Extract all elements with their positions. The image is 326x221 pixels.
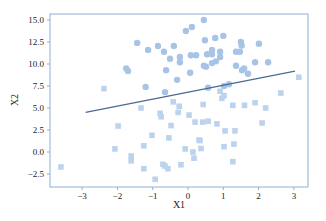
x-tick-label: −3: [77, 191, 87, 201]
circle-point: [134, 40, 140, 46]
circle-point: [201, 17, 207, 23]
circle-point: [237, 48, 243, 54]
y-axis-ticks: −2.50.02.55.07.510.012.515.0: [28, 15, 50, 179]
x-tick-label: −1: [148, 191, 158, 201]
circle-point: [256, 41, 262, 47]
y-axis-label: X2: [9, 94, 20, 106]
circle-point: [174, 77, 180, 83]
scatter-chart: −3−2−10123 −2.50.02.55.07.510.012.515.0 …: [0, 0, 326, 221]
circle-point: [220, 33, 226, 39]
circle-point: [171, 43, 177, 49]
plot-frame: [50, 14, 308, 187]
circle-point: [233, 63, 239, 69]
square-point: [168, 123, 174, 129]
circle-point: [142, 84, 148, 90]
circle-point: [145, 47, 151, 53]
circle-point: [203, 63, 209, 69]
x-tick-label: −2: [113, 191, 123, 201]
square-point: [231, 141, 237, 147]
square-point: [166, 135, 172, 141]
x-tick-label: 0: [186, 191, 191, 201]
circle-point: [213, 58, 219, 64]
square-point: [230, 103, 236, 109]
circle-point: [202, 37, 208, 43]
circle-point: [125, 68, 131, 74]
circle-point: [193, 52, 199, 58]
square-point: [252, 100, 258, 106]
square-point: [219, 96, 225, 102]
circle-point: [187, 70, 193, 76]
square-point: [221, 144, 227, 150]
y-tick-label: 15.0: [28, 15, 44, 25]
x-tick-label: 1: [221, 191, 226, 201]
y-tick-label: −2.5: [28, 169, 45, 179]
circle-point: [155, 43, 161, 49]
square-point: [232, 128, 238, 134]
square-point: [205, 118, 211, 124]
circle-point: [238, 42, 244, 48]
square-point: [214, 121, 220, 127]
square-point: [128, 158, 134, 164]
square-point: [192, 119, 198, 125]
circle-point: [183, 28, 189, 34]
square-point: [101, 86, 107, 92]
square-point: [165, 166, 171, 172]
circle-point: [265, 59, 271, 65]
square-point: [176, 103, 182, 109]
square-point: [191, 155, 197, 161]
square-point: [198, 146, 204, 152]
square-point: [278, 90, 284, 96]
circle-point: [167, 56, 173, 62]
y-tick-label: 10.0: [28, 59, 44, 69]
circle-point: [239, 67, 245, 73]
y-tick-label: 12.5: [28, 37, 44, 47]
square-point: [152, 176, 158, 182]
y-tick-label: 2.5: [33, 125, 45, 135]
y-tick-label: 7.5: [33, 81, 45, 91]
square-point: [138, 105, 144, 111]
circle-point: [161, 48, 167, 54]
square-point: [296, 74, 302, 80]
x-tick-label: 3: [292, 191, 297, 201]
square-point: [190, 149, 196, 155]
circle-point: [163, 67, 169, 73]
circle-point: [252, 59, 258, 65]
circle-point: [177, 59, 183, 65]
circle-point: [209, 51, 215, 57]
square-point: [158, 114, 164, 120]
square-point: [222, 128, 228, 134]
y-tick-label: 0.0: [33, 147, 45, 157]
square-point: [200, 119, 206, 125]
square-point: [263, 105, 269, 111]
square-point: [178, 162, 184, 168]
square-point: [58, 164, 64, 170]
square-point: [112, 146, 118, 152]
square-point: [175, 110, 181, 116]
square-point: [259, 120, 265, 126]
circle-point: [245, 70, 251, 76]
square-point: [141, 143, 147, 149]
y-tick-label: 5.0: [33, 103, 45, 113]
x-axis-label: X1: [173, 199, 185, 210]
square-point: [128, 153, 134, 159]
square-point: [186, 112, 192, 118]
square-point: [200, 102, 206, 108]
square-point: [149, 132, 155, 138]
circle-point: [162, 89, 168, 95]
x-tick-label: 2: [256, 191, 261, 201]
square-point: [230, 159, 236, 165]
square-point: [170, 99, 176, 105]
circle-point: [189, 24, 195, 30]
circle-point: [212, 35, 218, 41]
x-axis-ticks: −3−2−10123: [77, 187, 296, 201]
square-point: [197, 138, 203, 144]
square-point: [242, 103, 248, 109]
square-point: [141, 166, 147, 172]
square-point: [115, 123, 121, 129]
square-point: [182, 146, 188, 152]
